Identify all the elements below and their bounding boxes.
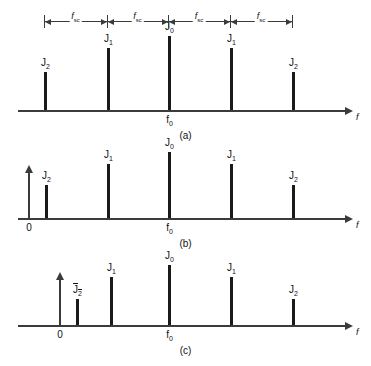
spectral-line	[168, 152, 171, 218]
frequency-axis-arrowhead	[345, 107, 353, 115]
carrier-frequency-label: f0	[166, 329, 173, 342]
origin-dc-component-line	[59, 279, 61, 325]
spectral-line-label: J1	[107, 262, 116, 275]
frequency-axis	[18, 218, 345, 220]
dimension-arrow-left	[45, 19, 51, 25]
frequency-axis-label: f	[356, 327, 359, 337]
origin-label: 0	[26, 222, 32, 233]
dimension-arrow-right	[162, 19, 168, 25]
spectral-line-label: J0	[165, 250, 174, 263]
spectral-line	[230, 164, 233, 218]
dimension-arrow-right	[101, 19, 107, 25]
spectral-line	[230, 48, 233, 110]
spectral-line-label: J2	[41, 57, 50, 70]
spectral-line	[107, 164, 110, 218]
panel-b: f0J2J1J0J1J2f0(b)	[0, 140, 371, 255]
spectral-line-label: J1	[104, 33, 113, 46]
spectral-line	[292, 185, 295, 218]
spectral-line-label: J1	[104, 149, 113, 162]
spectral-line-label: J1	[227, 149, 236, 162]
frequency-axis	[18, 110, 345, 112]
spectral-line	[230, 277, 233, 325]
panel-a: fJ2J1J0J1J2f0(a) fscfscfscfsc	[0, 0, 371, 140]
spectral-line-label: J0	[165, 137, 174, 150]
spectral-line-label: J2	[73, 284, 82, 297]
dimension-label: fsc	[255, 11, 268, 23]
frequency-axis-label: f	[356, 220, 359, 230]
origin-label: 0	[57, 329, 63, 340]
spectral-line	[76, 299, 79, 325]
spectral-line-label: J2	[289, 57, 298, 70]
spectral-line	[110, 277, 113, 325]
dimension-arrow-left	[169, 19, 175, 25]
carrier-frequency-label: f0	[166, 114, 173, 127]
origin-dc-component-line	[28, 172, 30, 218]
spectral-line-label: J1	[227, 262, 236, 275]
dimension-arrow-right	[224, 19, 230, 25]
frequency-axis-arrowhead	[345, 215, 353, 223]
frequency-axis	[18, 325, 345, 327]
origin-arrowhead	[56, 272, 64, 280]
dimension-label: fsc	[193, 11, 206, 23]
spectral-line-label: J2	[289, 284, 298, 297]
panel-c: f0J2J1J0J1J2f0(c)	[0, 255, 371, 366]
dimension-label: fsc	[131, 11, 144, 23]
spectral-line-label: J2	[42, 170, 51, 183]
panel-caption: (c)	[0, 345, 371, 356]
carrier-frequency-label: f0	[166, 222, 173, 235]
origin-arrowhead	[25, 165, 33, 173]
dimension-arrow-right	[286, 19, 292, 25]
spectrum-plot-c: f0J2J1J0J1J2f0(c)	[0, 255, 371, 366]
spectral-line	[168, 36, 171, 110]
frequency-axis-label: f	[356, 112, 359, 122]
spectral-line	[107, 48, 110, 110]
panel-caption: (b)	[0, 238, 371, 249]
spectral-line-label: J1	[227, 33, 236, 46]
spectral-line	[292, 299, 295, 325]
dimension-arrow-left	[108, 19, 114, 25]
dimension-label: fsc	[69, 11, 82, 23]
spectrum-plot-b: f0J2J1J0J1J2f0(b)	[0, 140, 371, 255]
frequency-axis-arrowhead	[345, 322, 353, 330]
spectral-line	[44, 72, 47, 110]
dimension-tick	[292, 15, 293, 28]
dimension-arrow-left	[231, 19, 237, 25]
spectral-line-label: J2	[289, 170, 298, 183]
spectral-line	[168, 265, 171, 325]
spectral-line	[45, 185, 48, 218]
spectral-line	[292, 72, 295, 110]
